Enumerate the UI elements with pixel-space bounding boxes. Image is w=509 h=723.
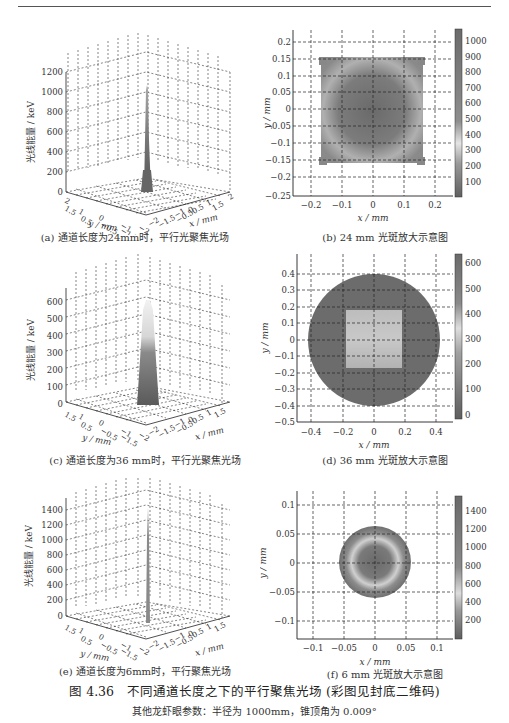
svg-text:600: 600 (47, 565, 63, 575)
svg-text:−0.3: −0.3 (274, 384, 295, 394)
y-axis-label-b: y / mm (262, 98, 272, 130)
svg-text:0: 0 (286, 104, 291, 114)
z-axis-label-c: 光线能量 / keV (25, 318, 36, 381)
surface-plot-c: 600500400 3002001000 1.5 1 0.5 0 −0.5 −1… (0, 250, 260, 450)
svg-text:200: 200 (47, 167, 63, 177)
svg-text:−0.1: −0.1 (332, 200, 353, 210)
svg-text:0.05: 0.05 (397, 643, 416, 653)
svg-text:1400: 1400 (465, 506, 487, 516)
svg-text:0: 0 (58, 187, 63, 197)
svg-text:0.1: 0.1 (277, 71, 291, 81)
svg-text:400: 400 (47, 331, 63, 341)
svg-text:0: 0 (58, 611, 63, 621)
svg-text:500: 500 (465, 284, 481, 294)
svg-text:−0.05: −0.05 (269, 587, 295, 597)
svg-text:400: 400 (465, 309, 481, 319)
svg-text:0.3: 0.3 (281, 285, 295, 295)
svg-text:0.5: 0.5 (191, 412, 206, 426)
x-axis-label-e: x / mm (194, 641, 225, 658)
svg-text:−0.5: −0.5 (274, 417, 295, 427)
svg-text:0.2: 0.2 (428, 200, 442, 210)
svg-text:200: 200 (465, 161, 481, 171)
svg-text:2: 2 (227, 191, 236, 201)
svg-text:800: 800 (47, 107, 63, 117)
svg-text:0: 0 (371, 427, 376, 437)
svg-text:800: 800 (465, 561, 481, 571)
svg-text:1000: 1000 (41, 87, 63, 97)
svg-text:−0.2: −0.2 (301, 200, 322, 210)
x-axis-label-c: x / mm (194, 425, 225, 442)
svg-text:0.5: 0.5 (191, 626, 206, 640)
svg-text:1.5: 1.5 (213, 620, 228, 634)
caption-e: (e) 通道长度为6mm时，平行聚焦光场 (50, 663, 240, 678)
svg-text:800: 800 (47, 550, 63, 560)
caption-b: (b) 24 mm 光斑放大示意图 (300, 229, 470, 244)
surface-plot-e: 140012001000800 6004002000 1.5 1 0.5 0 −… (0, 478, 260, 673)
svg-text:−0.1: −0.1 (274, 351, 295, 361)
svg-text:−0.1: −0.1 (274, 616, 295, 626)
svg-text:0.1: 0.1 (397, 200, 411, 210)
panel-d-heatmap: 0.40.30.20.1 0−0.1−0.2−0.3 −0.4−0.5 −0.4… (260, 252, 509, 452)
svg-text:−0.2: −0.2 (274, 368, 295, 378)
svg-text:−0.1: −0.1 (270, 138, 291, 148)
svg-text:500: 500 (47, 314, 63, 324)
heatmap-b: 0.20.150.10.05 0−0.05−0.1−0.15 −0.2−0.25… (260, 20, 509, 230)
svg-text:1200: 1200 (465, 524, 487, 534)
panel-c-surface-plot: 600500400 3002001000 1.5 1 0.5 0 −0.5 −1… (0, 250, 260, 450)
page-top-rule (18, 6, 491, 7)
svg-text:400: 400 (465, 130, 481, 140)
svg-text:1400: 1400 (41, 505, 63, 515)
panel-e-surface-plot: 140012001000800 6004002000 1.5 1 0.5 0 −… (0, 478, 260, 673)
svg-text:0.05: 0.05 (272, 87, 291, 97)
svg-text:−0.15: −0.15 (265, 155, 291, 165)
svg-text:1000: 1000 (465, 36, 487, 46)
caption-f: (f) 6 mm 光斑放大示意图 (300, 666, 470, 681)
svg-text:−0.2: −0.2 (270, 172, 291, 182)
svg-text:1.5: 1.5 (211, 199, 226, 213)
svg-text:0.1: 0.1 (281, 318, 295, 328)
surface-plot-a: 12001000800 6004002000 2 1.5 1 0.5 0 −0.… (0, 20, 260, 235)
y-axis-label-d: y / mm (260, 323, 270, 355)
svg-text:200: 200 (47, 365, 63, 375)
svg-text:1.5: 1.5 (63, 204, 78, 218)
svg-text:700: 700 (465, 83, 481, 93)
svg-text:300: 300 (47, 348, 63, 358)
svg-text:100: 100 (465, 177, 481, 187)
x-axis-label-d: x / mm (359, 440, 390, 450)
energy-peak-e (146, 508, 150, 623)
figure-note: 其他龙虾眼参数：半径为 1000mm，锥顶角为 0.009° (0, 703, 509, 718)
svg-text:0.15: 0.15 (272, 54, 291, 64)
caption-a: (a) 通道长度为24mm时，平行光聚焦光场 (35, 229, 235, 244)
svg-text:600: 600 (465, 258, 481, 268)
svg-text:0.2: 0.2 (277, 37, 291, 47)
svg-text:600: 600 (465, 579, 481, 589)
svg-text:400: 400 (465, 597, 481, 607)
colorbar-f (455, 496, 462, 639)
energy-peak-c (137, 300, 159, 405)
svg-text:−0.2: −0.2 (333, 427, 354, 437)
colorbar-b (455, 29, 462, 197)
svg-text:0: 0 (290, 335, 295, 345)
svg-text:1000: 1000 (41, 535, 63, 545)
focal-spot-b (321, 57, 423, 163)
caption-d: (d) 36 mm 光斑放大示意图 (300, 452, 470, 467)
y-axis-label-f: y / mm (260, 548, 268, 580)
svg-text:−0.4: −0.4 (301, 427, 322, 437)
svg-text:400: 400 (47, 580, 63, 590)
svg-text:800: 800 (465, 67, 481, 77)
svg-text:1.5: 1.5 (63, 623, 78, 637)
colorbar-d (455, 254, 462, 419)
panel-b-heatmap: 0.20.150.10.05 0−0.05−0.1−0.15 −0.2−0.25… (260, 20, 509, 230)
z-axis-label-a: 光线能量 / keV (25, 100, 36, 163)
svg-text:0.4: 0.4 (281, 269, 295, 279)
svg-text:−0.1: −0.1 (303, 643, 324, 653)
heatmap-d: 0.40.30.20.1 0−0.1−0.2−0.3 −0.4−0.5 −0.4… (260, 252, 509, 452)
svg-text:100: 100 (465, 384, 481, 394)
x-axis-label-b: x / mm (358, 213, 389, 223)
svg-text:400: 400 (47, 147, 63, 157)
svg-text:600: 600 (47, 297, 63, 307)
svg-text:900: 900 (465, 52, 481, 62)
svg-text:0: 0 (370, 200, 375, 210)
z-axis-label-e: 光线能量 / keV (23, 524, 34, 587)
heatmap-f: 0.10.050 −0.05−0.1 −0.1−0.0500.050.1 x /… (260, 485, 509, 670)
